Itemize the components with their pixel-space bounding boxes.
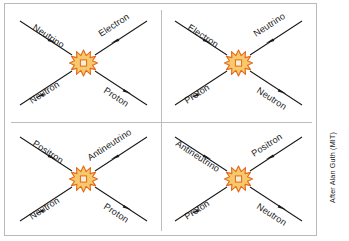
arrowhead-top-right: [111, 39, 120, 44]
credit-rail: After Alan Guth (MIT): [318, 3, 349, 236]
arrowhead-bottom-right: [123, 89, 132, 94]
particle-label-bottom-right: Neutron: [255, 85, 288, 112]
particle-interaction-figure: Neutrino Electron Neutron Proton: [0, 0, 349, 241]
particle-label-top-left: Antineutrino: [174, 138, 222, 174]
particle-label-bottom-left: Neutron: [28, 195, 61, 222]
diagram-canvas: Neutrino Electron Neutron Proton: [6, 5, 161, 121]
diagram-canvas: Electron Neutrino Proton Neutron: [162, 5, 316, 121]
particle-label-top-left: Electron: [186, 22, 220, 49]
panel-top-left: Neutrino Electron Neutron Proton: [6, 5, 161, 121]
particle-label-top-right: Positron: [250, 131, 284, 158]
figure-frame: Neutrino Electron Neutron Proton: [4, 3, 317, 236]
particle-label-bottom-right: Proton: [102, 85, 131, 108]
interaction-starburst-icon: [225, 166, 253, 192]
arrowhead-bottom-right: [278, 205, 287, 210]
particle-label-bottom-right: Neutron: [255, 201, 288, 228]
panel-bottom-right: Antineutrino Positron Proton Neutron: [162, 123, 316, 236]
particle-label-top-left: Neutrino: [31, 22, 66, 50]
interaction-starburst-icon: [70, 50, 98, 76]
panel-bottom-left: Positron Antineutrino Neutron Proton: [6, 123, 161, 236]
arrowhead-top-right: [266, 39, 275, 44]
arrowhead-top-right: [266, 155, 275, 160]
particle-label-bottom-right: Proton: [102, 201, 131, 224]
particle-label-bottom-left: Proton: [183, 198, 212, 221]
panel-grid: Neutrino Electron Neutron Proton: [5, 4, 316, 235]
arrowhead-bottom-right: [278, 89, 287, 94]
particle-label-bottom-left: Neutron: [28, 79, 61, 106]
particle-label-top-left: Positron: [31, 138, 65, 165]
particle-label-bottom-left: Proton: [183, 82, 212, 105]
interaction-starburst-icon: [225, 50, 253, 76]
interaction-starburst-icon: [70, 166, 98, 192]
arrowhead-top-right: [111, 155, 120, 160]
particle-label-top-right: Antineutrino: [86, 127, 134, 163]
arrowhead-bottom-right: [123, 205, 132, 210]
diagram-canvas: Antineutrino Positron Proton Neutron: [162, 123, 316, 236]
diagram-canvas: Positron Antineutrino Neutron Proton: [6, 123, 161, 236]
panel-top-right: Electron Neutrino Proton Neutron: [162, 5, 316, 121]
figure-credit: After Alan Guth (MIT): [328, 68, 337, 241]
